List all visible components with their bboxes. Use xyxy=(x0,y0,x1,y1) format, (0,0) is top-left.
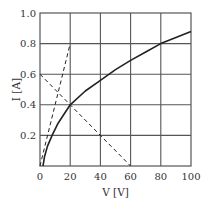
x-tick-label: 80 xyxy=(154,171,167,182)
characteristic-curve xyxy=(43,31,191,166)
x-tick-label: 0 xyxy=(37,171,43,182)
x-tick-label: 60 xyxy=(124,171,137,182)
y-axis-label: I [A] xyxy=(10,78,22,101)
plot-frame xyxy=(40,13,191,166)
y-tick-label: 1.0 xyxy=(20,8,36,19)
grid-lines xyxy=(40,13,191,166)
y-axis-ticks: 0.20.40.60.81.0 xyxy=(20,8,36,141)
y-tick-label: 0.6 xyxy=(20,69,36,80)
dashed-line xyxy=(40,74,131,166)
y-tick-label: 0.2 xyxy=(20,130,36,141)
data-series xyxy=(40,31,191,166)
x-axis-ticks: 020406080100 xyxy=(37,171,201,182)
x-tick-label: 40 xyxy=(94,171,107,182)
x-tick-label: 100 xyxy=(181,171,200,182)
x-axis-label: V [V] xyxy=(101,186,129,198)
x-tick-label: 20 xyxy=(64,171,77,182)
y-tick-label: 0.8 xyxy=(20,38,36,49)
y-tick-label: 0.4 xyxy=(20,99,36,110)
iv-chart: 020406080100 0.20.40.60.81.0 V [V] I [A] xyxy=(0,0,210,209)
